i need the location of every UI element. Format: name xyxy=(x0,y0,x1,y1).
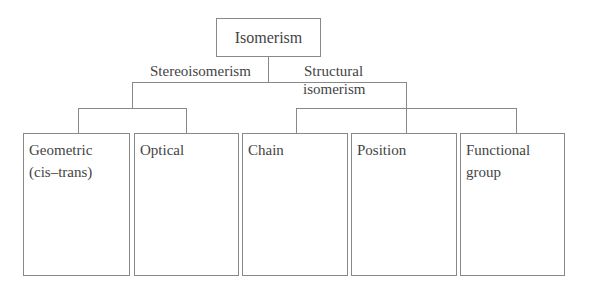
leaf-node-chain: Chain xyxy=(242,133,348,276)
stereo-drop-line xyxy=(132,82,133,108)
geometric-label-line1: Geometric xyxy=(29,139,92,161)
position-connector xyxy=(406,108,407,133)
optical-label: Optical xyxy=(140,139,184,161)
chain-connector xyxy=(296,108,297,133)
leaf-node-geometric: Geometric (cis–trans) xyxy=(23,133,130,276)
branch-label-structural-line2: isomerism xyxy=(303,78,366,100)
functional-connector xyxy=(516,108,517,133)
geometric-connector xyxy=(78,108,79,133)
stereo-children-line xyxy=(78,108,187,109)
root-label: Isomerism xyxy=(217,27,320,49)
structural-drop-line xyxy=(406,82,407,108)
leaf-node-optical: Optical xyxy=(134,133,239,276)
leaf-node-position: Position xyxy=(351,133,457,276)
root-node-isomerism: Isomerism xyxy=(216,18,321,57)
functional-label-line2: group xyxy=(466,161,530,183)
chain-label: Chain xyxy=(248,139,284,161)
optical-connector xyxy=(186,108,187,133)
position-label: Position xyxy=(357,139,406,161)
geometric-label-line2: (cis–trans) xyxy=(29,161,92,183)
root-stem-line xyxy=(268,57,269,82)
functional-label-line1: Functional xyxy=(466,139,530,161)
branch-label-stereoisomerism: Stereoisomerism xyxy=(150,60,251,82)
leaf-node-functional-group: Functional group xyxy=(460,133,565,276)
